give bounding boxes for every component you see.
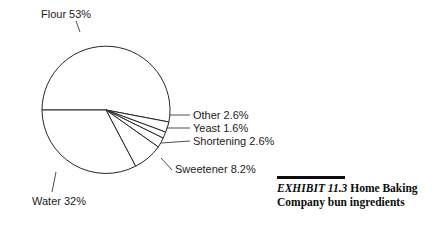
caption-text: EXHIBIT 11.3 Home Baking Company bun ing… [277,182,437,209]
leader-line-water [52,172,56,192]
leader-line-sweetener [161,158,172,170]
exhibit-figure: Flour 53% Water 32% Sweetener 8.2% Short… [0,0,442,225]
slice-label-other: Other 2.6% [193,109,249,122]
leader-line-flour [76,21,80,32]
slice-label-water: Water 32% [32,195,86,208]
slice-label-yeast: Yeast 1.6% [193,122,248,135]
caption-rule [277,176,345,179]
leader-line-shortening [161,141,190,143]
slice-label-shortening: Shortening 2.6% [193,135,274,148]
slice-label-sweetener: Sweetener 8.2% [175,163,256,176]
exhibit-caption: EXHIBIT 11.3 Home Baking Company bun ing… [277,176,437,209]
slice-label-flour: Flour 53% [41,8,91,21]
caption-exhibit-number: EXHIBIT 11.3 [277,182,347,194]
